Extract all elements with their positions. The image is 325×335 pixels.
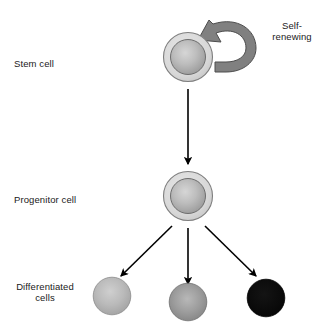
arrow-progenitor-to-diff-left [121, 226, 172, 276]
differentiated-cell-medium [169, 283, 207, 321]
progenitor-cell-node [164, 172, 213, 221]
progenitor-cell-label: Progenitor cell [14, 194, 76, 205]
differentiated-cells-label: Differentiated cells [6, 281, 84, 303]
stem-cell-node [164, 33, 213, 82]
self-renewing-label: Self- renewing [262, 20, 322, 42]
differentiated-cell-black [247, 279, 285, 317]
stem-cell-differentiation-diagram: Stem cell Progenitor cell Differentiated… [0, 0, 325, 335]
stem-cell-label: Stem cell [14, 58, 54, 69]
arrow-progenitor-to-diff-right [205, 226, 256, 276]
differentiated-cell-light [93, 277, 131, 315]
